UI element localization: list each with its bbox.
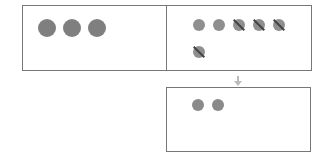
circle: [212, 99, 224, 111]
circle: [63, 19, 81, 37]
down-arrow-icon: [234, 76, 242, 86]
result-box: [166, 87, 311, 152]
circle: [88, 19, 106, 37]
crossed-circle: [233, 19, 245, 31]
circle: [192, 99, 204, 111]
right-box: [166, 5, 312, 71]
crossed-circle: [193, 46, 205, 58]
crossed-circle: [253, 19, 265, 31]
circle: [38, 19, 56, 37]
circle: [213, 19, 225, 31]
circle: [193, 19, 205, 31]
left-box: [22, 5, 167, 71]
crossed-circle: [273, 19, 285, 31]
